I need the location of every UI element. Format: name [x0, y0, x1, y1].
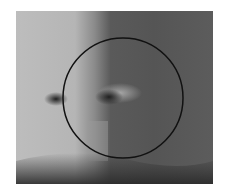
circle-overlay: [0, 0, 227, 196]
circle-marker-icon: [63, 38, 183, 158]
